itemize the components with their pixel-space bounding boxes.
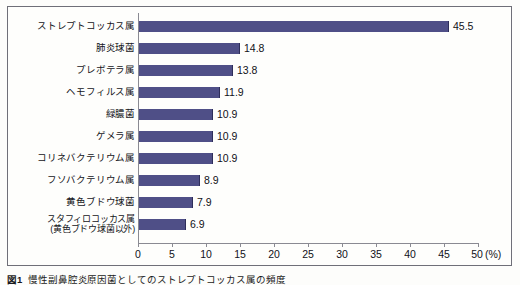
- bar-row: ストレプトコッカス属 45.5: [8, 15, 513, 37]
- bar: [139, 131, 213, 142]
- bar: [139, 153, 213, 164]
- x-tick-label: 20: [268, 248, 280, 260]
- bar: [139, 43, 240, 54]
- category-label: ヘモフィルス属: [12, 81, 138, 103]
- bar-value-label: 10.9: [217, 152, 237, 164]
- x-tick-label: 15: [234, 248, 246, 260]
- bar-container: 7.9: [139, 191, 513, 213]
- bar-row: 黄色ブドウ球菌 7.9: [8, 191, 513, 213]
- bar: [139, 175, 200, 186]
- bar-row: 緑膿菌 10.9: [8, 103, 513, 125]
- bar-container: 13.8: [139, 59, 513, 81]
- x-tick: [138, 243, 139, 247]
- figure-caption-marker: 図1: [7, 274, 22, 285]
- bar-value-label: 13.8: [237, 64, 257, 76]
- x-tick-label: 45: [438, 248, 450, 260]
- figure-caption-text: 慢性副鼻腔炎原因菌としてのストレプトコッカス属の頻度: [28, 274, 285, 285]
- category-label: 緑膿菌: [12, 103, 138, 125]
- bar-row: スタフィロコッカス属 (黄色ブドウ球菌以外) 6.9: [8, 213, 513, 235]
- bar-value-label: 45.5: [453, 20, 473, 32]
- bar-container: 11.9: [139, 81, 513, 103]
- x-tick: [240, 243, 241, 247]
- bar-row: ゲメラ属 10.9: [8, 125, 513, 147]
- figure-page: ストレプトコッカス属 45.5 肺炎球菌 14.8 プレボテラ属 13.8: [0, 0, 520, 285]
- bar-container: 8.9: [139, 169, 513, 191]
- bar-value-label: 8.9: [204, 174, 219, 186]
- chart-plot-area: ストレプトコッカス属 45.5 肺炎球菌 14.8 プレボテラ属 13.8: [8, 7, 513, 267]
- bar-value-label: 6.9: [190, 218, 205, 230]
- category-label: コリネバクテリウム属: [12, 147, 138, 169]
- figure-caption: 図1慢性副鼻腔炎原因菌としてのストレプトコッカス属の頻度: [7, 272, 427, 285]
- x-axis-unit-label: (%): [485, 248, 501, 260]
- x-tick: [274, 243, 275, 247]
- x-tick-label: 40: [404, 248, 416, 260]
- category-label: ストレプトコッカス属: [12, 15, 138, 37]
- category-label: フソバクテリウム属: [12, 169, 138, 191]
- x-tick: [376, 243, 377, 247]
- bar-container: 10.9: [139, 103, 513, 125]
- x-tick: [478, 243, 479, 247]
- x-tick: [342, 243, 343, 247]
- x-tick-label: 30: [336, 248, 348, 260]
- bar-value-label: 10.9: [217, 108, 237, 120]
- bar-row: ヘモフィルス属 11.9: [8, 81, 513, 103]
- x-tick: [308, 243, 309, 247]
- bar-value-label: 7.9: [197, 196, 212, 208]
- bar-row: フソバクテリウム属 8.9: [8, 169, 513, 191]
- bar-value-label: 10.9: [217, 130, 237, 142]
- category-label: 黄色ブドウ球菌: [12, 191, 138, 213]
- bar-row: 肺炎球菌 14.8: [8, 37, 513, 59]
- bar-row: プレボテラ属 13.8: [8, 59, 513, 81]
- x-tick-label: 25: [302, 248, 314, 260]
- bar-container: 10.9: [139, 147, 513, 169]
- bar: [139, 21, 449, 32]
- bar-value-label: 11.9: [224, 86, 244, 98]
- x-tick-label: 0: [135, 248, 141, 260]
- category-label: スタフィロコッカス属 (黄色ブドウ球菌以外): [12, 213, 138, 235]
- x-tick: [444, 243, 445, 247]
- bar: [139, 65, 233, 76]
- x-tick-label: 35: [370, 248, 382, 260]
- x-tick: [410, 243, 411, 247]
- bar-container: 10.9: [139, 125, 513, 147]
- x-tick-label: 5: [169, 248, 175, 260]
- chart-frame: ストレプトコッカス属 45.5 肺炎球菌 14.8 プレボテラ属 13.8: [7, 6, 512, 266]
- category-label: プレボテラ属: [12, 59, 138, 81]
- category-label: 肺炎球菌: [12, 37, 138, 59]
- bar-container: 6.9: [139, 213, 513, 235]
- x-tick: [172, 243, 173, 247]
- bar: [139, 87, 220, 98]
- bar-value-label: 14.8: [244, 42, 264, 54]
- bar-container: 45.5: [139, 15, 513, 37]
- bar-container: 14.8: [139, 37, 513, 59]
- category-label: ゲメラ属: [12, 125, 138, 147]
- bar: [139, 219, 186, 230]
- bar: [139, 109, 213, 120]
- x-tick-label: 10: [200, 248, 212, 260]
- bar-row: コリネバクテリウム属 10.9: [8, 147, 513, 169]
- bar: [139, 197, 193, 208]
- x-tick: [206, 243, 207, 247]
- x-tick-label: 50: [471, 248, 483, 260]
